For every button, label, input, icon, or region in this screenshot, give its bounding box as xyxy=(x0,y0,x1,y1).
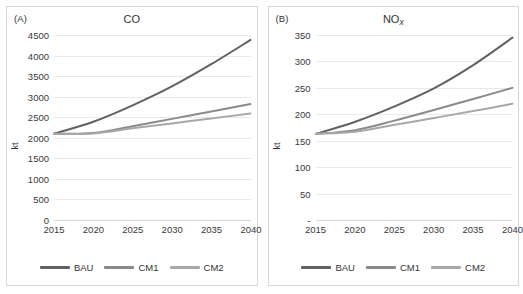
legend-item-cm2[interactable]: CM2 xyxy=(170,262,224,273)
y-axis-tick-label: 250 xyxy=(295,82,311,93)
legend-item-cm1[interactable]: CM1 xyxy=(366,262,420,273)
legend-b: BAUCM1CM2 xyxy=(269,262,519,273)
y-axis-tick-label: 2500 xyxy=(28,112,49,123)
x-axis-ticks: 201520202025203020352040 xyxy=(54,224,251,240)
legend-item-cm2[interactable]: CM2 xyxy=(431,262,485,273)
y-axis-tick-label: 3500 xyxy=(28,71,49,82)
x-axis-tick-label: 2025 xyxy=(122,224,143,235)
series-line-bau xyxy=(316,38,513,134)
legend-label: BAU xyxy=(74,262,94,273)
x-axis-tick-label: 2020 xyxy=(83,224,104,235)
x-axis-tick-label: 2020 xyxy=(344,224,365,235)
series-line-bau xyxy=(54,40,251,134)
y-axis-tick-label: 350 xyxy=(295,30,311,41)
x-axis-tick-label: 2030 xyxy=(162,224,183,235)
x-axis-line xyxy=(316,220,513,221)
y-axis-tick-label: 500 xyxy=(33,194,49,205)
legend-swatch xyxy=(366,266,396,268)
series-line-cm2 xyxy=(54,114,251,134)
x-axis-ticks: 201520202025203020352040 xyxy=(316,224,513,240)
plot-canvas-b: -501001502002503003502015202020252030203… xyxy=(316,35,513,220)
series-line-cm1 xyxy=(316,88,513,134)
x-axis-tick-label: 2015 xyxy=(43,224,64,235)
panel-title-a: CO xyxy=(7,13,257,27)
chart-panel-b: (B) NOx kt -5010015020025030035020152020… xyxy=(268,6,520,286)
x-axis-tick-label: 2040 xyxy=(502,224,523,235)
legend-label: CM1 xyxy=(400,262,420,273)
y-axis-tick-label: 3000 xyxy=(28,91,49,102)
y-axis-tick-label: 50 xyxy=(300,188,311,199)
legend-swatch xyxy=(301,266,331,268)
panel-title-b-text: NO xyxy=(383,13,400,25)
x-axis-tick-label: 2015 xyxy=(305,224,326,235)
panel-title-b-subscript: x xyxy=(399,17,403,27)
y-axis-tick-label: 150 xyxy=(295,135,311,146)
legend-item-bau[interactable]: BAU xyxy=(40,262,94,273)
legend-label: CM1 xyxy=(138,262,158,273)
legend-a: BAUCM1CM2 xyxy=(7,262,257,273)
y-axis-tick-label: 1000 xyxy=(28,173,49,184)
legend-label: CM2 xyxy=(204,262,224,273)
series-line-cm1 xyxy=(54,104,251,134)
legend-label: BAU xyxy=(335,262,355,273)
y-axis-label-a: kt xyxy=(10,142,20,149)
legend-swatch xyxy=(170,266,200,268)
y-axis-tick-label: 100 xyxy=(295,162,311,173)
x-axis-tick-label: 2035 xyxy=(463,224,484,235)
chart-panel-a: (A) CO kt 050010001500200025003000350040… xyxy=(6,6,258,286)
x-axis-tick-label: 2030 xyxy=(423,224,444,235)
y-axis-tick-label: 200 xyxy=(295,109,311,120)
legend-swatch xyxy=(104,266,134,268)
plot-area-a: 0500100015002000250030003500400045002015… xyxy=(54,35,251,220)
panel-title-b: NOx xyxy=(269,13,519,27)
plot-canvas-a: 0500100015002000250030003500400045002015… xyxy=(54,35,251,220)
legend-swatch xyxy=(431,266,461,268)
x-axis-tick-label: 2040 xyxy=(240,224,261,235)
legend-swatch xyxy=(40,266,70,268)
y-axis-label-b: kt xyxy=(271,142,281,149)
series-layer xyxy=(316,35,513,220)
figure: (A) CO kt 050010001500200025003000350040… xyxy=(0,0,523,294)
x-axis-line xyxy=(54,220,251,221)
x-axis-tick-label: 2035 xyxy=(201,224,222,235)
y-axis-tick-label: 4500 xyxy=(28,30,49,41)
y-axis-tick-label: 300 xyxy=(295,56,311,67)
y-axis-tick-label: 2000 xyxy=(28,132,49,143)
y-axis-tick-label: 1500 xyxy=(28,153,49,164)
series-line-cm2 xyxy=(316,104,513,134)
panel-title-a-text: CO xyxy=(124,13,141,25)
series-layer xyxy=(54,35,251,220)
legend-item-cm1[interactable]: CM1 xyxy=(104,262,158,273)
legend-item-bau[interactable]: BAU xyxy=(301,262,355,273)
plot-area-b: -501001502002503003502015202020252030203… xyxy=(316,35,513,220)
y-axis-tick-label: 4000 xyxy=(28,50,49,61)
x-axis-tick-label: 2025 xyxy=(384,224,405,235)
legend-label: CM2 xyxy=(465,262,485,273)
